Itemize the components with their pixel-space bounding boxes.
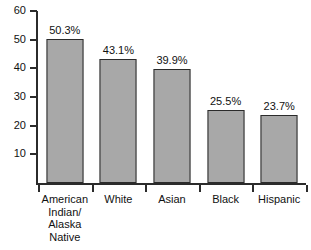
- bar-group: 50.3%: [38, 11, 92, 183]
- x-axis-tick: [145, 185, 147, 192]
- y-axis-tick-label-wrap: 50: [0, 39, 37, 41]
- bar-value-label: 23.7%: [264, 100, 295, 112]
- category-label-line: Hispanic: [252, 193, 306, 206]
- x-axis-line: [36, 183, 306, 185]
- x-axis-tick: [252, 185, 254, 192]
- bar-group: 39.9%: [145, 11, 199, 183]
- category-label-line: American: [38, 193, 92, 206]
- category-label: Asian: [145, 193, 199, 206]
- y-axis-tick-label-wrap: 10: [0, 153, 37, 155]
- bar[interactable]: [100, 59, 137, 183]
- y-axis-tick-label: 40: [0, 62, 26, 73]
- category-label-line: Asian: [145, 193, 199, 206]
- bar-value-label: 25.5%: [210, 95, 241, 107]
- bar-chart: 102030405060 50.3%43.1%39.9%25.5%23.7% A…: [0, 0, 311, 250]
- bar[interactable]: [153, 69, 190, 183]
- y-axis-tick-label-wrap: 60: [0, 10, 37, 12]
- y-axis-tick-label-wrap: 40: [0, 67, 37, 69]
- plot-area: 50.3%43.1%39.9%25.5%23.7%: [38, 11, 306, 183]
- bar-group: 43.1%: [92, 11, 146, 183]
- y-axis-tick-label: 60: [0, 5, 26, 16]
- category-labels: AmericanIndian/AlaskaNativeWhiteAsianBla…: [38, 193, 306, 250]
- bar[interactable]: [261, 115, 298, 183]
- category-label: Hispanic: [252, 193, 306, 206]
- bar[interactable]: [207, 110, 244, 183]
- y-axis-tick-label: 30: [0, 91, 26, 102]
- y-axis-tick-label-wrap: 20: [0, 125, 37, 127]
- category-label: AmericanIndian/AlaskaNative: [38, 193, 92, 243]
- bar-value-label: 39.9%: [156, 54, 187, 66]
- bar[interactable]: [46, 39, 83, 183]
- x-axis-tick: [199, 185, 201, 192]
- category-label: Black: [199, 193, 253, 206]
- y-axis-tick-label: 20: [0, 120, 26, 131]
- bar-group: 23.7%: [252, 11, 306, 183]
- bar-value-label: 50.3%: [49, 24, 80, 36]
- category-label-line: White: [92, 193, 146, 206]
- category-label-line: Black: [199, 193, 253, 206]
- x-axis-tick: [92, 185, 94, 192]
- y-axis-tick-label-wrap: 30: [0, 96, 37, 98]
- x-axis-tick: [38, 185, 40, 192]
- y-axis-tick-label: 10: [0, 148, 26, 159]
- bar-group: 25.5%: [199, 11, 253, 183]
- category-label-line: Alaska: [38, 218, 92, 231]
- category-label-line: Native: [38, 231, 92, 244]
- y-axis-tick-label: 50: [0, 34, 26, 45]
- category-label-line: Indian/: [38, 206, 92, 219]
- bar-value-label: 43.1%: [103, 44, 134, 56]
- category-label: White: [92, 193, 146, 206]
- x-axis-tick: [306, 185, 308, 192]
